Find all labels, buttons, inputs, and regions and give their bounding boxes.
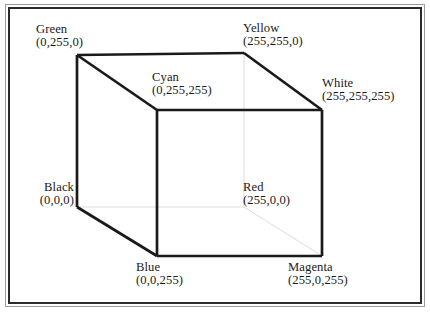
vertex-label-cyan: Cyan (0,255,255) — [152, 71, 212, 98]
hidden-edge-red-magenta — [244, 207, 322, 256]
rgb-color-cube-figure: Green (0,255,0) Yellow (255,255,0) Cyan … — [0, 0, 430, 313]
vertex-name-black: Black — [0, 181, 74, 194]
vertex-label-magenta: Magenta (255,0,255) — [288, 261, 348, 288]
vertex-name-green: Green — [36, 23, 83, 36]
vertex-label-green: Green (0,255,0) — [36, 23, 83, 50]
vertex-label-white: White (255,255,255) — [322, 77, 395, 104]
vertex-name-cyan: Cyan — [152, 71, 212, 84]
vertex-name-yellow: Yellow — [243, 22, 303, 35]
edge-black-blue — [77, 207, 157, 256]
vertex-tuple-black: (0,0,0) — [0, 194, 74, 207]
vertex-tuple-red: (255,0,0) — [243, 194, 290, 207]
vertex-name-magenta: Magenta — [288, 261, 348, 274]
edge-green-yellow — [77, 53, 244, 55]
vertex-name-blue: Blue — [136, 261, 183, 274]
vertex-tuple-white: (255,255,255) — [322, 90, 395, 103]
vertex-label-red: Red (255,0,0) — [243, 181, 290, 208]
vertex-name-red: Red — [243, 181, 290, 194]
vertex-label-black: Black (0,0,0) — [0, 181, 74, 208]
edge-green-cyan — [77, 55, 157, 110]
edge-yellow-white — [244, 53, 322, 110]
vertex-tuple-blue: (0,0,255) — [136, 274, 183, 287]
vertex-tuple-yellow: (255,255,0) — [243, 35, 303, 48]
vertex-label-yellow: Yellow (255,255,0) — [243, 22, 303, 49]
vertex-tuple-green: (0,255,0) — [36, 36, 83, 49]
vertex-name-white: White — [322, 77, 395, 90]
vertex-tuple-magenta: (255,0,255) — [288, 274, 348, 287]
vertex-tuple-cyan: (0,255,255) — [152, 84, 212, 97]
vertex-label-blue: Blue (0,0,255) — [136, 261, 183, 288]
